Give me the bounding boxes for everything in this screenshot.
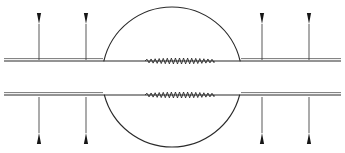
fracture-mechanics-diagram — [0, 0, 345, 153]
arrow-up-icon-head-4 — [307, 13, 311, 24]
arrow-up-icon-head-3 — [260, 13, 264, 24]
lower-load-arrows — [37, 97, 311, 144]
central-circle-group — [104, 7, 240, 147]
arrow-up-icon-head-1 — [37, 13, 41, 24]
arrow-down-icon-head-3 — [260, 133, 264, 144]
upper-load-arrows — [37, 13, 311, 60]
arrow-up-icon-head-2 — [84, 13, 88, 24]
circle-top-arc — [104, 7, 240, 61]
circle-bottom-arc — [104, 95, 239, 147]
upper-member-group — [4, 58, 341, 64]
diagram-canvas — [0, 0, 345, 153]
lower-member-group — [4, 92, 341, 98]
arrow-down-icon-head-1 — [37, 133, 41, 144]
arrow-down-icon-head-4 — [307, 133, 311, 144]
arrow-down-icon-head-2 — [84, 133, 88, 144]
